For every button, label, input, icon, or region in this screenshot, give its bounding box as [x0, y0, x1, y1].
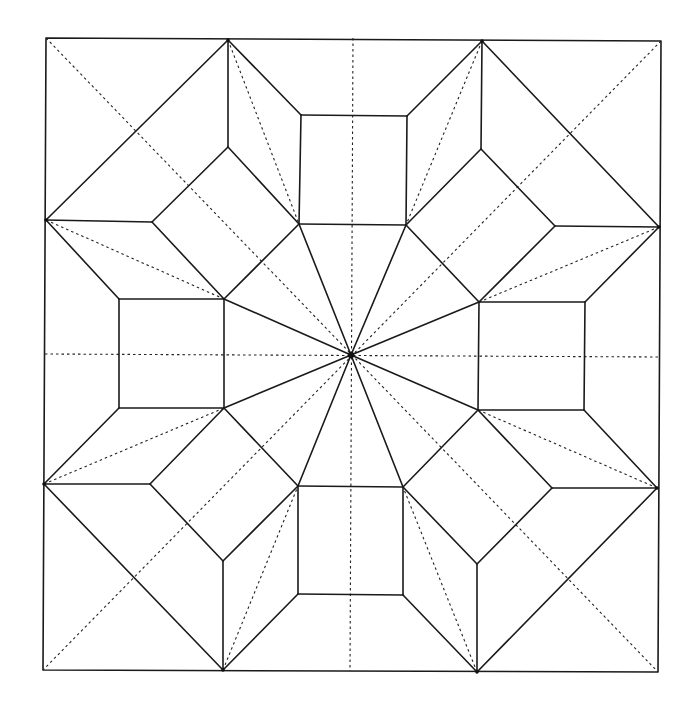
valley-fold-line [403, 487, 477, 672]
mountain-fold-line [478, 410, 552, 488]
mountain-fold-line [150, 484, 223, 561]
mountain-fold-line [477, 488, 657, 672]
mountain-fold-line [584, 410, 657, 488]
mountain-fold-line [477, 488, 552, 564]
valley-fold-line [46, 220, 224, 299]
mountain-fold-line [406, 149, 481, 225]
mountain-fold-line [406, 116, 407, 225]
valley-fold-line [44, 408, 224, 484]
mountain-fold-line [298, 486, 403, 487]
valley-fold-line [223, 486, 298, 670]
mountain-fold-line [403, 410, 478, 487]
mountain-fold-line [228, 147, 299, 224]
mountain-fold-line [584, 302, 585, 410]
mountain-fold-line [482, 41, 659, 227]
vertex-dot [44, 218, 48, 222]
vertex-dot [655, 486, 659, 490]
vertex-dot [221, 668, 225, 672]
mountain-fold-line [301, 115, 407, 116]
mountain-fold-line [46, 220, 119, 299]
mountain-fold-line [555, 226, 659, 227]
crease-pattern-diagram: Origami crease pattern [0, 0, 693, 707]
mountain-fold-line [298, 594, 403, 595]
vertex-dot [348, 352, 354, 358]
mountain-fold-line [152, 147, 228, 222]
mountain-fold-line [223, 594, 298, 670]
vertex-dot [480, 39, 484, 43]
vertex-dot [42, 482, 46, 486]
mountain-fold-line [299, 224, 406, 225]
crease-pattern-svg [0, 0, 693, 707]
mountain-fold-line [299, 115, 301, 224]
mountain-fold-line [150, 408, 224, 484]
valley-fold-line [479, 227, 659, 302]
mountain-fold-line [407, 41, 482, 116]
mountain-fold-line [403, 487, 477, 564]
vertex-dot [226, 38, 230, 42]
valley-fold-line [478, 410, 657, 488]
mountain-fold-line [478, 302, 479, 410]
vertex-dot [475, 670, 479, 674]
mountain-fold-line [46, 220, 152, 222]
mountain-fold-line [228, 40, 301, 115]
mountain-fold-line [481, 41, 482, 149]
mountain-fold-line [406, 225, 479, 302]
mountain-fold-line [585, 227, 659, 302]
vertex-dot [657, 225, 661, 229]
valley-fold-line [406, 41, 482, 225]
mountain-fold-line [403, 595, 477, 672]
mountain-fold-line [479, 226, 555, 302]
mountain-fold-line [44, 408, 119, 484]
mountain-fold-line [152, 222, 224, 299]
valley-fold-line [228, 40, 299, 224]
mountain-fold-line [224, 408, 298, 486]
mountain-fold-line [223, 486, 298, 561]
